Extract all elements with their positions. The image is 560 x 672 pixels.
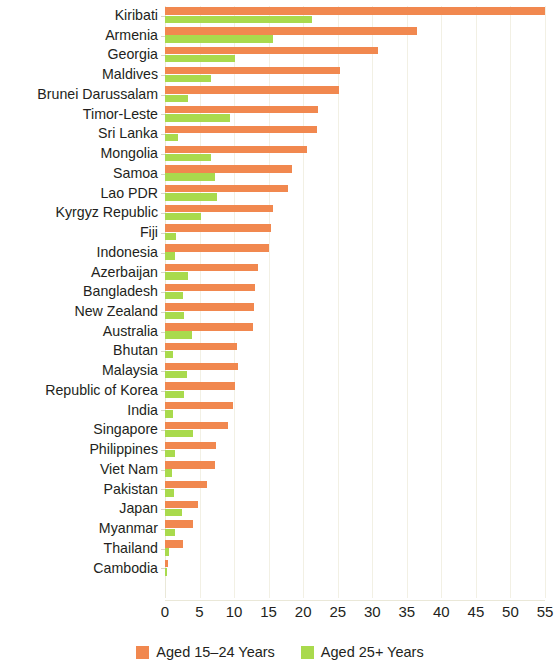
legend-item[interactable]: Aged 25+ Years <box>301 644 424 660</box>
x-tick-label: 55 <box>537 603 554 620</box>
bar-row <box>165 85 545 105</box>
bar-aged-15-24 <box>165 146 307 153</box>
bar-aged-15-24 <box>165 303 254 310</box>
category-label: Timor-Leste <box>0 105 158 125</box>
x-tick-label: 25 <box>329 603 346 620</box>
bar-aged-15-24 <box>165 284 255 291</box>
bar-aged-15-24 <box>165 27 417 34</box>
bar-aged-15-24 <box>165 363 238 370</box>
category-label: Fiji <box>0 223 158 243</box>
bar-aged-15-24 <box>165 402 233 409</box>
bar-aged-15-24 <box>165 382 235 389</box>
category-label: Kyrgyz Republic <box>0 203 158 223</box>
category-label: Republic of Korea <box>0 381 158 401</box>
bar-row <box>165 203 545 223</box>
category-label: Pakistan <box>0 480 158 500</box>
bar-aged-25-plus <box>165 529 175 536</box>
category-label: Philippines <box>0 440 158 460</box>
bar-row <box>165 302 545 322</box>
category-label: Kiribati <box>0 6 158 26</box>
bar-aged-25-plus <box>165 568 167 575</box>
bar-row <box>165 480 545 500</box>
legend-swatch-young <box>136 646 149 659</box>
bar-aged-25-plus <box>165 35 273 42</box>
bar-aged-25-plus <box>165 489 174 496</box>
category-label: Bangladesh <box>0 282 158 302</box>
bar-row <box>165 26 545 46</box>
bar-row <box>165 124 545 144</box>
x-tick-label: 5 <box>195 603 203 620</box>
category-label: Indonesia <box>0 243 158 263</box>
bar-aged-25-plus <box>165 75 211 82</box>
bar-aged-25-plus <box>165 371 187 378</box>
bar-aged-25-plus <box>165 16 312 23</box>
x-tick-label: 45 <box>468 603 485 620</box>
bar-aged-15-24 <box>165 185 288 192</box>
legend-swatch-older <box>301 646 314 659</box>
category-label: Mongolia <box>0 144 158 164</box>
bar-aged-25-plus <box>165 410 173 417</box>
bar-aged-25-plus <box>165 450 175 457</box>
bar-row <box>165 45 545 65</box>
bar-aged-15-24 <box>165 264 258 271</box>
legend-label: Aged 15–24 Years <box>156 644 275 660</box>
x-tick-label: 30 <box>364 603 381 620</box>
bar-aged-25-plus <box>165 55 235 62</box>
bar-row <box>165 105 545 125</box>
category-label: Sri Lanka <box>0 124 158 144</box>
bar-aged-25-plus <box>165 134 178 141</box>
category-label: Malaysia <box>0 361 158 381</box>
category-label: Japan <box>0 499 158 519</box>
bar-aged-15-24 <box>165 7 545 14</box>
category-label: Brunei Darussalam <box>0 85 158 105</box>
horizontal-bar-chart: KiribatiArmeniaGeorgiaMaldivesBrunei Dar… <box>0 0 560 672</box>
x-tick-label: 10 <box>226 603 243 620</box>
chart-legend: Aged 15–24 YearsAged 25+ Years <box>0 644 560 660</box>
bar-rows <box>165 6 545 598</box>
category-label: India <box>0 401 158 421</box>
bar-aged-25-plus <box>165 331 192 338</box>
legend-item[interactable]: Aged 15–24 Years <box>136 644 275 660</box>
gridline-55 <box>545 6 546 598</box>
bar-aged-15-24 <box>165 501 198 508</box>
category-label: Lao PDR <box>0 184 158 204</box>
plot-area <box>165 6 545 598</box>
bar-aged-25-plus <box>165 430 193 437</box>
category-label: Myanmar <box>0 519 158 539</box>
category-label: Viet Nam <box>0 460 158 480</box>
bar-row <box>165 282 545 302</box>
bar-row <box>165 460 545 480</box>
x-tick-label: 50 <box>502 603 519 620</box>
bar-aged-25-plus <box>165 193 217 200</box>
x-tick-label: 35 <box>398 603 415 620</box>
bar-aged-25-plus <box>165 213 201 220</box>
bar-aged-25-plus <box>165 173 215 180</box>
category-label: Georgia <box>0 45 158 65</box>
bar-row <box>165 322 545 342</box>
bar-aged-25-plus <box>165 351 173 358</box>
x-tick-label: 20 <box>295 603 312 620</box>
bar-aged-15-24 <box>165 343 237 350</box>
category-axis-labels: KiribatiArmeniaGeorgiaMaldivesBrunei Dar… <box>0 6 158 598</box>
bar-row <box>165 65 545 85</box>
category-label: Cambodia <box>0 559 158 579</box>
category-label: Australia <box>0 322 158 342</box>
category-label: Azerbaijan <box>0 263 158 283</box>
x-axis-line <box>165 600 545 601</box>
category-label: Samoa <box>0 164 158 184</box>
bar-aged-15-24 <box>165 106 318 113</box>
bar-row <box>165 6 545 26</box>
category-label: New Zealand <box>0 302 158 322</box>
bar-row <box>165 223 545 243</box>
bar-aged-15-24 <box>165 560 168 567</box>
bar-row <box>165 184 545 204</box>
bar-row <box>165 401 545 421</box>
bar-aged-25-plus <box>165 312 184 319</box>
bar-aged-25-plus <box>165 469 172 476</box>
category-label: Bhutan <box>0 341 158 361</box>
bar-row <box>165 539 545 559</box>
category-label: Armenia <box>0 26 158 46</box>
bar-aged-25-plus <box>165 272 188 279</box>
bar-aged-15-24 <box>165 461 215 468</box>
bar-row <box>165 243 545 263</box>
